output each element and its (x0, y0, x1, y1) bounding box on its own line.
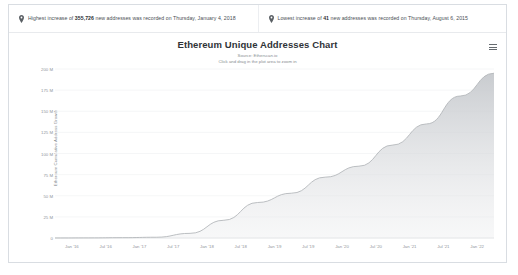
highest-value: 355,726 (75, 15, 94, 21)
chart-source: Source: Etherscan.io (9, 53, 506, 59)
area-fill (55, 73, 494, 238)
x-axis-ticks: Jan '16Jul '16Jan '17Jul '17Jan '18Jul '… (55, 244, 494, 254)
x-tick-label: Jan '19 (268, 244, 282, 249)
x-tick-label: Jan '22 (470, 244, 484, 249)
plot-area[interactable] (55, 69, 494, 238)
y-tick-label: 75 M (43, 172, 53, 177)
x-tick-label: Jan '16 (65, 244, 79, 249)
lowest-suffix: new addresses was recorded on Thursday, … (329, 15, 468, 21)
highest-increase-text: Highest increase of 355,726 new addresse… (28, 15, 236, 22)
x-tick-label: Jul '16 (99, 244, 111, 249)
y-tick-label: 200 M (41, 67, 53, 72)
lowest-increase-text: Lowest increase of 41 new addresses was … (278, 15, 469, 22)
y-tick-label: 25 M (43, 214, 53, 219)
y-axis-ticks: 025 M50 M75 M100 M125 M150 M175 M200 M (25, 69, 53, 238)
y-tick-label: 175 M (41, 88, 53, 93)
screenshot-root: Highest increase of 355,726 new addresse… (0, 0, 518, 275)
x-tick-label: Jul '18 (235, 244, 247, 249)
y-tick-label: 50 M (43, 193, 53, 198)
x-tick-label: Jul '17 (167, 244, 179, 249)
y-tick-label: 0 (51, 236, 53, 241)
y-tick-label: 150 M (41, 109, 53, 114)
x-tick-label: Jul '21 (437, 244, 449, 249)
x-tick-label: Jul '19 (302, 244, 314, 249)
x-tick-label: Jan '21 (403, 244, 417, 249)
chart-card: Highest increase of 355,726 new addresse… (8, 4, 507, 263)
x-tick-label: Jan '17 (133, 244, 147, 249)
chart-title: Ethereum Unique Addresses Chart (9, 39, 506, 50)
lowest-prefix: Lowest increase of (278, 15, 324, 21)
lowest-increase-banner: Lowest increase of 41 new addresses was … (258, 5, 507, 32)
highest-prefix: Highest increase of (28, 15, 75, 21)
chart-zoom-hint: Click and drag in the plot area to zoom … (9, 59, 506, 65)
chart-container: Ethereum Unique Addresses Chart Source: … (9, 33, 506, 262)
y-tick-label: 100 M (41, 151, 53, 156)
stat-banner-bar: Highest increase of 355,726 new addresse… (9, 5, 506, 33)
chart-titles: Ethereum Unique Addresses Chart Source: … (9, 39, 506, 65)
map-pin-icon (269, 15, 274, 23)
y-tick-label: 125 M (41, 130, 53, 135)
map-pin-icon (19, 15, 24, 23)
highest-increase-banner: Highest increase of 355,726 new addresse… (9, 5, 258, 32)
x-tick-label: Jan '18 (200, 244, 214, 249)
hamburger-menu-icon[interactable] (487, 41, 499, 53)
highest-suffix: new addresses was recorded on Thursday, … (94, 15, 236, 21)
x-tick-label: Jan '20 (335, 244, 349, 249)
x-tick-label: Jul '20 (370, 244, 382, 249)
